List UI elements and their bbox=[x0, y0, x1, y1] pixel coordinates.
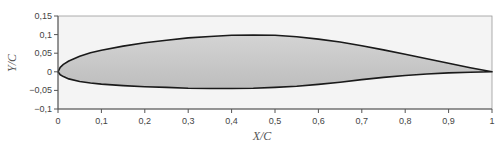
y-tick-label: −0,1 bbox=[34, 104, 52, 114]
x-tick-label: 0 bbox=[55, 116, 60, 126]
airfoil-chart: 00,10,20,30,40,50,60,70,80,910,150,10,05… bbox=[0, 0, 504, 151]
x-tick-label: 0,3 bbox=[182, 116, 195, 126]
y-tick-label: 0,15 bbox=[34, 11, 52, 21]
y-tick-label: −0,05 bbox=[29, 85, 52, 95]
y-tick-label: 0 bbox=[47, 67, 52, 77]
y-axis-title: Y/C bbox=[5, 53, 19, 72]
y-tick-label: 0,05 bbox=[34, 48, 52, 58]
x-axis-title: X/C bbox=[252, 129, 273, 143]
x-tick-label: 0,1 bbox=[95, 116, 108, 126]
x-tick-label: 0,6 bbox=[312, 116, 325, 126]
x-tick-label: 0,5 bbox=[269, 116, 282, 126]
x-tick-label: 0,2 bbox=[139, 116, 152, 126]
y-tick-label: 0,1 bbox=[39, 30, 52, 40]
x-tick-label: 0,8 bbox=[399, 116, 412, 126]
x-tick-label: 0,7 bbox=[356, 116, 369, 126]
x-tick-label: 0,9 bbox=[442, 116, 455, 126]
x-tick-label: 0,4 bbox=[225, 116, 238, 126]
x-tick-label: 1 bbox=[489, 116, 494, 126]
